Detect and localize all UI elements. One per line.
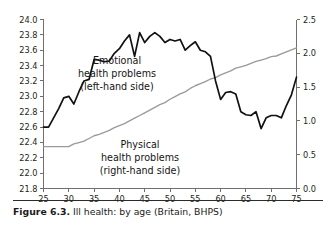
figure-caption-text: Ill health: by age (Britain, BHPS) <box>70 206 223 217</box>
figure-caption: Figure 6.3. Ill health: by age (Britain,… <box>13 206 323 218</box>
physical-annotation-line3: (right-hand side) <box>100 165 180 176</box>
right-tick-label: 2.5 <box>303 15 316 25</box>
right-tick-label: 2.0 <box>303 48 316 58</box>
right-tick-label: 0.0 <box>303 184 316 194</box>
emotional-annotation-line1: Emotional <box>93 55 141 66</box>
emotional-annotation: Emotional health problems (left-hand sid… <box>78 55 156 92</box>
figure-caption-label: Figure 6.3. <box>13 206 70 217</box>
left-tick-label: 23.6 <box>19 45 37 55</box>
x-axis-tick-marks <box>44 189 297 193</box>
left-tick-label: 24.0 <box>19 15 37 25</box>
figure-caption-bar: Figure 6.3. Ill health: by age (Britain,… <box>13 200 323 218</box>
right-tick-label: 0.5 <box>303 150 316 160</box>
emotional-annotation-line2: health problems <box>78 68 156 79</box>
left-tick-label: 22.8 <box>19 107 37 117</box>
physical-annotation-line1: Physical <box>120 139 159 150</box>
physical-annotation-line2: health problems <box>101 152 179 163</box>
left-tick-label: 22.2 <box>19 153 37 163</box>
left-tick-label: 22.0 <box>19 168 37 178</box>
emotional-annotation-line3: (left-hand side) <box>80 81 153 92</box>
left-tick-label: 23.8 <box>19 30 37 40</box>
left-tick-label: 23.4 <box>19 61 37 71</box>
right-axis-tick-labels: 0.00.51.01.52.02.5 <box>303 15 316 194</box>
right-tick-label: 1.5 <box>303 82 316 92</box>
left-axis-tick-marks <box>40 20 44 189</box>
figure-container: 21.822.022.222.422.622.823.023.223.423.6… <box>0 0 333 235</box>
left-tick-label: 23.0 <box>19 91 37 101</box>
right-axis-tick-marks <box>297 20 301 189</box>
left-axis-tick-labels: 21.822.022.222.422.622.823.023.223.423.6… <box>19 15 37 194</box>
left-tick-label: 22.4 <box>19 137 37 147</box>
left-tick-label: 23.2 <box>19 76 37 86</box>
left-tick-label: 22.6 <box>19 122 37 132</box>
left-tick-label: 21.8 <box>19 184 37 194</box>
physical-health-line <box>44 48 297 147</box>
right-tick-label: 1.0 <box>303 116 316 126</box>
physical-annotation: Physical health problems (right-hand sid… <box>100 139 180 176</box>
